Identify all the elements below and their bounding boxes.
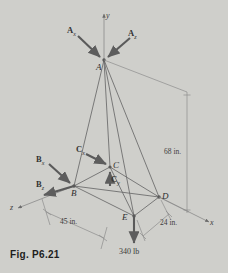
dimension-label-height: 68 in. <box>164 148 181 156</box>
dimension-label-depth: 45 in. <box>60 218 77 226</box>
force-label-B-x: Bx <box>36 155 44 166</box>
axis-label-y: y <box>106 12 110 20</box>
node-label-C: C <box>113 161 119 170</box>
force-arrow-B-x <box>49 164 70 183</box>
load-label-340lb: 340 lb <box>119 248 139 256</box>
force-label-C-x: Cx <box>76 145 85 156</box>
force-arrow-B-z <box>44 186 74 195</box>
figure-container: A B C D E y x z Ax Az Bx Bz Cx Cy 68 in.… <box>0 0 228 273</box>
force-arrow-A-z <box>108 38 130 57</box>
node-label-E: E <box>122 213 128 222</box>
force-label-C-y: Cy <box>111 175 120 186</box>
node-label-B: B <box>71 189 77 198</box>
force-label-A-z: Az <box>128 29 136 40</box>
axis-label-x: x <box>210 219 214 227</box>
force-arrow-A-x <box>78 36 100 57</box>
force-arrow-C-x <box>86 154 106 164</box>
node-label-A: A <box>96 63 102 72</box>
force-label-B-z: Bz <box>36 180 44 191</box>
diagram-canvas <box>0 0 228 273</box>
dimension-label-width: 24 in. <box>160 219 177 227</box>
node-label-D: D <box>162 192 169 201</box>
axis-label-z: z <box>10 204 13 212</box>
force-label-A-x: Ax <box>67 26 76 37</box>
figure-caption: Fig. P6.21 <box>10 249 60 260</box>
